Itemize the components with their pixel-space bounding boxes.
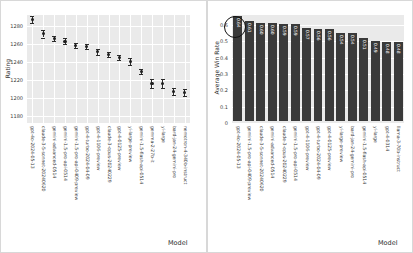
bar: 0.54 [336,33,345,121]
y-tick-label: 1220 [10,77,23,83]
gridline-vertical [87,15,88,123]
x-tick-label: gemini-advanced-0514 [52,126,57,178]
error-bar-cap [117,60,121,61]
bar: 0.54 [348,33,357,121]
bar-value-label: 0.61 [247,23,252,32]
left-plot-area [27,15,190,123]
figure-container: 118012001220124012601280 gpt-4o-2024-05-… [0,0,413,253]
error-bar-cap [96,55,100,56]
marker-dot [63,40,66,43]
left-y-axis-title: Rating [4,51,11,87]
x-tick-label: claude-3-5-sonnet-20240620 [41,126,46,191]
bar: 0.59 [279,24,288,121]
error-bar-cap [30,23,34,24]
x-tick-label: gemini-1.5-flash-api-0514 [361,126,366,184]
bar: 0.60 [256,23,265,121]
error-bar-cap [85,49,89,50]
bar-value-label: 0.49 [373,43,378,52]
bar-value-label: 0.57 [304,30,309,39]
x-tick-label: yi-large-preview [128,126,133,162]
x-tick-label: bard-jan-24-gemini-pro [171,126,176,178]
x-tick-label: claude-3-opus-20240229 [281,126,286,183]
x-tick-label: claude-3-5-sonnet-20240620 [258,126,263,191]
bar: 0.51 [359,38,368,121]
x-tick-label: gemini-1.5-pro-api-0409-preview [73,126,78,200]
y-tick-label: 0.1 [220,104,228,110]
x-tick-label: yi-large [373,126,378,143]
right-y-axis-title: Average Win Rate [213,43,220,95]
x-tick-label: gemini-1.5-flash-api-0514 [139,126,144,184]
right-chart-panel: 00.10.20.30.40.50.6 0.640.610.600.600.59… [207,0,413,253]
y-tick-label: 1240 [10,59,23,65]
x-tick-label: gpt-4-0314 [384,126,389,151]
bar: 0.61 [245,21,254,121]
error-bar-cap [107,57,111,58]
bar-value-label: 0.48 [396,44,401,53]
x-tick-label: gemini-1.5-pro-api-0514 [293,126,298,181]
bar-value-label: 0.54 [350,35,355,44]
error-bar-cap [139,74,143,75]
x-tick-label: gpt-4-turbo-2024-04-09 [84,126,89,180]
error-bar-cap [161,88,165,89]
y-tick-label: 1200 [10,95,23,101]
bar: 0.59 [291,24,300,121]
bar-value-label: 0.48 [384,44,389,53]
error-bar-cap [30,16,34,17]
y-tick-label: 0.5 [220,38,228,44]
x-tick-label: gpt-4-1106-preview [304,126,309,170]
error-bar-cap [183,89,187,90]
y-tick-label: 1180 [10,113,23,119]
x-tick-label: yi-large [160,126,165,143]
x-tick-label: claude-3-opus-20240229 [106,126,111,183]
left-x-axis-title: Model [168,239,188,247]
error-bar-cap [52,41,56,42]
gridline-vertical [98,15,99,123]
error-bar-cap [74,48,78,49]
gridline-vertical [109,15,110,123]
bar: 0.49 [371,41,380,121]
x-tick-label: bard-jan-24-gemini-pro [350,126,355,178]
y-tick-label: 1280 [10,23,23,29]
x-tick-label: llama-3-70b-instruct [396,126,401,172]
bar-value-label: 0.60 [270,25,275,34]
y-tick-label: 0.2 [220,87,228,93]
y-tick-label: 0.4 [220,55,228,61]
error-bar-cap [41,38,45,39]
x-tick-label: gpt-4-0125-preview [117,126,122,170]
marker-dot [118,56,121,59]
gridline-vertical [54,15,55,123]
x-tick-label: gemini-1.5-pro-api-0514 [63,126,68,181]
bar-value-label: 0.56 [327,31,332,40]
left-chart-panel: 118012001220124012601280 gpt-4o-2024-05-… [0,0,207,253]
x-tick-label: gpt-4-0125-preview [327,126,332,170]
x-tick-label: gemini-advanced-0514 [270,126,275,178]
bar: 0.56 [314,29,323,121]
error-bar-cap [41,30,45,31]
right-x-axis-title: Model [378,239,398,247]
error-bar-cap [161,79,165,80]
error-bar-cap [150,88,154,89]
x-tick-label: gemma-2-27b-it [149,126,154,163]
y-tick-label: 0.3 [220,71,228,77]
x-tick-label: nemotron-4-340b-instruct [182,126,187,184]
y-tick-label: 1260 [10,41,23,47]
x-tick-label: yi-large-preview [338,126,343,162]
y-tick-label: 0 [225,120,228,126]
gridline-vertical [76,15,77,123]
marker-dot [140,70,143,73]
bar: 0.48 [394,42,403,121]
gridline-vertical [185,15,186,123]
bar-value-label: 0.59 [293,26,298,35]
error-bar-cap [128,65,132,66]
gridline-vertical [152,15,153,123]
gridline-vertical [119,15,120,123]
error-bar-cap [63,44,67,45]
gridline-vertical [163,15,164,123]
error-bar-cap [172,95,176,96]
error-bar-cap [183,96,187,97]
bar-value-label: 0.51 [361,40,366,49]
bar: 0.57 [302,28,311,121]
bar-value-label: 0.54 [338,35,343,44]
marker-dot [150,82,153,85]
highlight-circle-annotation [224,16,246,38]
